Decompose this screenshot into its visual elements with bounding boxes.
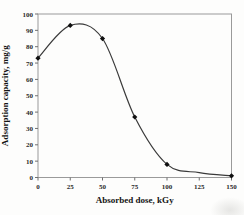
x-tick-label: 50 <box>99 183 107 191</box>
data-series <box>35 23 234 179</box>
plot-frame <box>38 14 232 178</box>
x-tick-label: 125 <box>194 183 205 191</box>
series-curve <box>38 24 232 176</box>
x-tick-label: 150 <box>226 183 237 191</box>
chart-canvas: 02550751001251500102030405060708090100 A… <box>0 0 244 215</box>
y-tick-label: 90 <box>26 27 34 35</box>
y-tick-label: 10 <box>26 158 34 166</box>
scanned-line-chart-figure: 02550751001251500102030405060708090100 A… <box>0 0 244 215</box>
y-tick-label: 60 <box>26 76 34 84</box>
y-tick-label: 70 <box>26 60 34 68</box>
data-point-marker <box>132 114 137 119</box>
y-tick-label: 100 <box>23 11 34 19</box>
y-tick-label: 0 <box>30 174 34 182</box>
y-tick-label: 30 <box>26 125 34 133</box>
x-tick-label: 75 <box>131 183 139 191</box>
axis-ticks <box>35 14 232 181</box>
x-tick-label: 0 <box>36 183 40 191</box>
y-tick-label: 40 <box>26 109 34 117</box>
plot-frame-box <box>38 14 232 178</box>
y-tick-label: 80 <box>26 43 34 51</box>
data-point-marker <box>68 23 73 28</box>
x-tick-label: 100 <box>162 183 173 191</box>
y-axis-label: Adsorption capacity, mg/g <box>0 45 10 146</box>
x-tick-label: 25 <box>67 183 75 191</box>
y-tick-label: 50 <box>26 92 34 100</box>
x-axis-label: Absorbed dose, kGy <box>96 195 174 205</box>
y-tick-label: 20 <box>26 141 34 149</box>
